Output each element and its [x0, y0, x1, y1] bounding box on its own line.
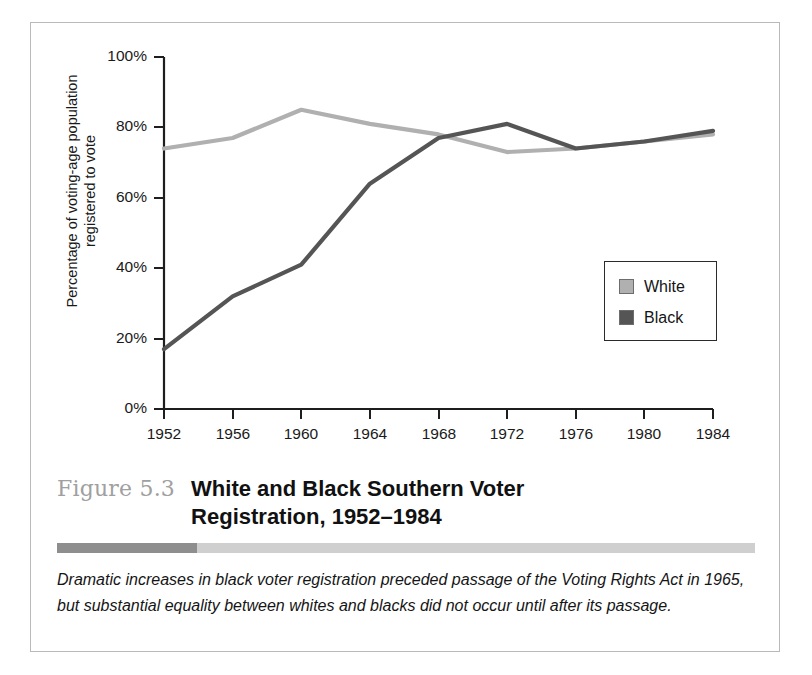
- figure-container: Percentage of voting-age population regi…: [30, 22, 780, 652]
- legend-swatch-white: [619, 279, 634, 294]
- figure-title: White and Black Southern Voter Registrat…: [191, 475, 661, 531]
- legend-item-white: White: [619, 271, 716, 302]
- legend-label-white: White: [644, 278, 685, 296]
- x-tick-label-1964: 1964: [340, 425, 400, 443]
- x-tick-label-1972: 1972: [477, 425, 537, 443]
- x-tick-label-1960: 1960: [271, 425, 331, 443]
- x-tick-label-1956: 1956: [203, 425, 263, 443]
- y-tick-label-0: 0%: [79, 399, 147, 417]
- divider-segment-light: [197, 543, 755, 553]
- x-tick-label-1968: 1968: [409, 425, 469, 443]
- y-tick-label-100: 100%: [79, 47, 147, 65]
- legend-item-black: Black: [619, 302, 716, 333]
- legend-swatch-black: [619, 310, 634, 325]
- figure-description: Dramatic increases in black voter regist…: [57, 567, 755, 619]
- divider-segment-dark: [57, 543, 197, 553]
- chart-legend: White Black: [604, 261, 717, 341]
- x-tick-label-1980: 1980: [614, 425, 674, 443]
- x-tick-label-1976: 1976: [546, 425, 606, 443]
- y-tick-label-20: 20%: [79, 329, 147, 347]
- figure-caption-block: Figure 5.3 White and Black Southern Vote…: [31, 463, 781, 619]
- y-tick-label-80: 80%: [79, 117, 147, 135]
- x-tick-label-1952: 1952: [134, 425, 194, 443]
- y-axis-ticks: [154, 57, 164, 409]
- caption-divider-bar: [57, 543, 755, 553]
- series-line-white: [164, 110, 713, 152]
- figure-number: Figure 5.3: [57, 475, 175, 501]
- line-chart-svg: [31, 23, 781, 463]
- legend-label-black: Black: [644, 309, 683, 327]
- y-tick-label-60: 60%: [79, 188, 147, 206]
- figure-title-row: Figure 5.3 White and Black Southern Vote…: [31, 463, 781, 531]
- chart-plot-area: Percentage of voting-age population regi…: [31, 23, 781, 463]
- y-tick-label-40: 40%: [79, 258, 147, 276]
- x-tick-label-1984: 1984: [683, 425, 743, 443]
- x-axis-ticks: [164, 409, 713, 419]
